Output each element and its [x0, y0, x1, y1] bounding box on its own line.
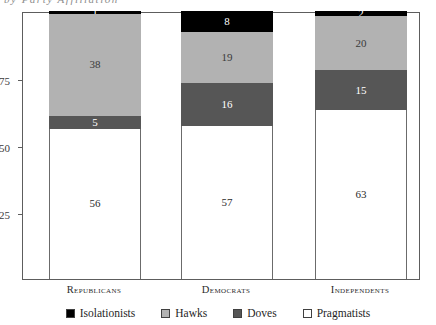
segment-pragmatists-democrats[interactable]: 57	[181, 126, 273, 279]
plot-area: 75 50 25 1 38 5 56 8 19 16 57 2 20 15 63	[22, 12, 420, 280]
y-tick-50: 50	[18, 147, 23, 148]
segment-isolationists-democrats[interactable]: 8	[181, 11, 273, 32]
segment-hawks-independents[interactable]: 20	[315, 16, 407, 70]
bar-independents[interactable]: 2 20 15 63	[315, 11, 407, 279]
segment-pragmatists-republicans[interactable]: 56	[49, 129, 141, 279]
legend-swatch-hawks-icon	[161, 309, 170, 318]
legend-label-pragmatists: Pragmatists	[317, 307, 371, 319]
legend-item-hawks[interactable]: Hawks	[161, 307, 207, 319]
x-label-democrats: Democrats	[202, 284, 251, 295]
legend-label-hawks: Hawks	[175, 307, 207, 319]
segment-pragmatists-independents[interactable]: 63	[315, 110, 407, 279]
bar-democrats[interactable]: 8 19 16 57	[181, 11, 273, 279]
legend-label-doves: Doves	[247, 307, 276, 319]
bar-republicans[interactable]: 1 38 5 56	[49, 11, 141, 279]
y-tick-25: 25	[18, 214, 23, 215]
x-label-independents: Independents	[331, 284, 389, 295]
legend-label-isolationists: Isolationists	[80, 307, 136, 319]
segment-hawks-democrats[interactable]: 19	[181, 32, 273, 83]
y-tick-label-75: 75	[0, 75, 10, 87]
legend-swatch-doves-icon	[233, 309, 242, 318]
legend-item-pragmatists[interactable]: Pragmatists	[303, 307, 371, 319]
x-label-republicans: Republicans	[67, 284, 122, 295]
legend-item-isolationists[interactable]: Isolationists	[66, 307, 136, 319]
legend-swatch-isolationists-icon	[66, 309, 75, 318]
segment-hawks-republicans[interactable]: 38	[49, 14, 141, 116]
segment-doves-democrats[interactable]: 16	[181, 83, 273, 126]
segment-doves-republicans[interactable]: 5	[49, 116, 141, 129]
legend-swatch-pragmatists-icon	[303, 309, 312, 318]
y-tick-75: 75	[18, 80, 23, 81]
y-tick-label-25: 25	[0, 209, 10, 221]
legend-item-doves[interactable]: Doves	[233, 307, 276, 319]
segment-doves-independents[interactable]: 15	[315, 70, 407, 110]
y-tick-label-50: 50	[0, 142, 10, 154]
chart-legend: Isolationists Hawks Doves Pragmatists	[0, 304, 436, 322]
stacked-bar-chart: 75 50 25 1 38 5 56 8 19 16 57 2 20 15 63	[0, 0, 436, 325]
